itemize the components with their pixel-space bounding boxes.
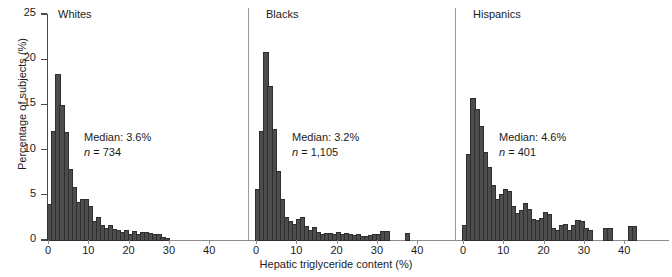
plot-area-hispanics bbox=[0, 14, 672, 240]
bar bbox=[496, 200, 499, 240]
x-tick-label-hispanics-40: 40 bbox=[612, 244, 636, 256]
bar bbox=[471, 99, 474, 240]
bar bbox=[512, 207, 515, 240]
x-tick-label-hispanics-0: 0 bbox=[451, 244, 475, 256]
bar bbox=[488, 168, 491, 240]
x-tick-label-hispanics-10: 10 bbox=[491, 244, 515, 256]
bar bbox=[484, 153, 487, 240]
bar bbox=[540, 219, 543, 240]
bar bbox=[568, 231, 571, 240]
bar bbox=[463, 226, 466, 240]
x-tick-label-hispanics-20: 20 bbox=[532, 244, 556, 256]
bar bbox=[604, 229, 607, 240]
bar bbox=[504, 190, 507, 240]
bar bbox=[492, 186, 495, 240]
bar bbox=[552, 229, 555, 240]
bar bbox=[480, 127, 483, 240]
bar bbox=[524, 204, 527, 240]
panel-hispanics: HispanicsMedian: 4.6%n = 401010203040 bbox=[0, 0, 672, 277]
bar bbox=[629, 227, 632, 240]
x-tick-label-hispanics-30: 30 bbox=[572, 244, 596, 256]
bar bbox=[580, 222, 583, 240]
chart-root: Percentage of subjects (%) Hepatic trigl… bbox=[0, 0, 672, 277]
bar bbox=[633, 227, 636, 240]
bar bbox=[588, 231, 591, 240]
bar bbox=[516, 214, 519, 240]
bar bbox=[532, 220, 535, 240]
bar bbox=[467, 155, 470, 240]
bar bbox=[560, 226, 563, 240]
bar bbox=[572, 226, 575, 240]
bar bbox=[520, 211, 523, 240]
bar bbox=[564, 225, 567, 240]
bar bbox=[508, 192, 511, 240]
bar bbox=[528, 210, 531, 240]
bar bbox=[576, 221, 579, 240]
bar bbox=[500, 195, 503, 240]
bar bbox=[475, 110, 478, 240]
bar bbox=[608, 229, 611, 240]
bar bbox=[548, 215, 551, 240]
bar bbox=[556, 231, 559, 240]
bar bbox=[544, 213, 547, 240]
bar bbox=[536, 221, 539, 240]
bar bbox=[584, 229, 587, 240]
